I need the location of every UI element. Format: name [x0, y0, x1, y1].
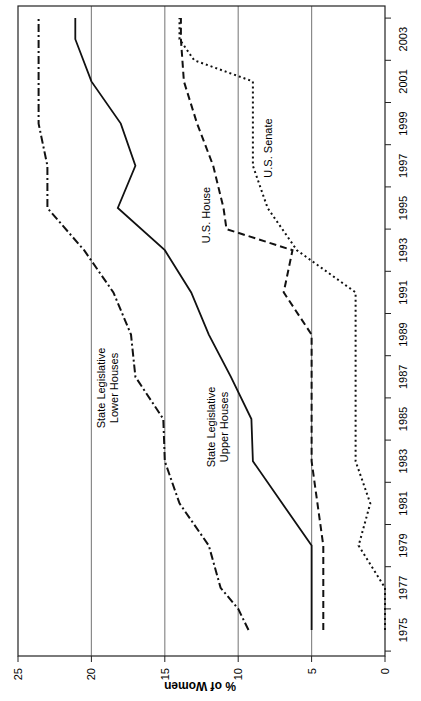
x-tick-label: 1989: [397, 322, 409, 346]
y-tick-label: 15: [159, 668, 171, 680]
y-tick-label: 25: [12, 668, 24, 680]
series-line: [181, 18, 323, 630]
y-axis-ticks: 0510152025: [12, 656, 391, 680]
series-line: [180, 18, 386, 630]
x-tick-label: 1997: [397, 154, 409, 178]
x-tick-label: 1995: [397, 196, 409, 220]
y-tick-label: 0: [379, 668, 391, 674]
svg-text:Upper Houses: Upper Houses: [218, 391, 230, 462]
series-line: [39, 18, 249, 630]
y-tick-label: 20: [85, 668, 97, 680]
y-axis-title: % of Women: [164, 679, 236, 693]
x-tick-label: 1983: [397, 449, 409, 473]
label-us-house: U.S. House: [200, 187, 212, 243]
svg-text:State Legislative: State Legislative: [95, 348, 107, 429]
y-tick-label: 10: [232, 668, 244, 680]
x-tick-label: 1977: [397, 576, 409, 600]
label-lower-houses: State Legislative Lower Houses: [95, 348, 120, 429]
x-axis-ticks: 1975197719791981198319851987198919911993…: [385, 18, 409, 651]
svg-text:Lower Houses: Lower Houses: [108, 352, 120, 423]
y-tick-label: 5: [306, 668, 318, 674]
gridlines: [91, 6, 311, 656]
x-tick-label: 1991: [397, 280, 409, 304]
plot-frame: [18, 6, 385, 656]
svg-text:State Legislative: State Legislative: [205, 387, 217, 468]
x-tick-label: 1975: [397, 618, 409, 642]
label-us-senate: U.S. Senate: [262, 118, 274, 177]
label-upper-houses: State Legislative Upper Houses: [205, 387, 230, 468]
x-tick-label: 1993: [397, 238, 409, 262]
series-lines: [39, 18, 385, 630]
x-tick-label: 2003: [397, 27, 409, 51]
x-tick-label: 1979: [397, 533, 409, 557]
chart: 1975197719791981198319851987198919911993…: [0, 0, 421, 701]
x-tick-label: 1999: [397, 111, 409, 135]
x-tick-label: 1987: [397, 365, 409, 389]
x-tick-label: 1985: [397, 407, 409, 431]
x-tick-label: 1981: [397, 491, 409, 515]
x-tick-label: 2001: [397, 69, 409, 93]
